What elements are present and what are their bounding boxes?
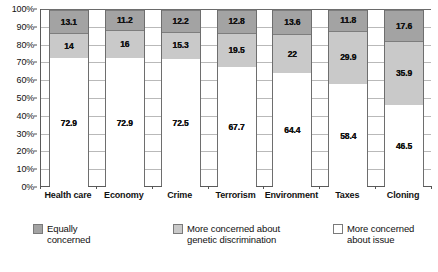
- bar-segment: 16: [106, 30, 144, 58]
- bar-segment: 35.9: [385, 41, 423, 105]
- bar-segment: 72.9: [50, 58, 88, 188]
- bar-segment: 72.5: [162, 59, 200, 188]
- y-tick-mark: [34, 133, 37, 134]
- bar-segment: 13.1: [50, 10, 88, 33]
- y-tick-mark: [34, 98, 37, 99]
- bar-segment: 19.5: [218, 33, 256, 68]
- bar-segment-value: 72.9: [61, 119, 77, 128]
- bar-economy: 72.91611.2: [105, 9, 145, 186]
- bar-segment: 12.8: [218, 10, 256, 33]
- legend-swatch-icon: [173, 224, 183, 234]
- bar-segment-value: 13.1: [61, 18, 77, 27]
- bar-segment: 11.8: [329, 10, 367, 31]
- y-tick-mark: [34, 26, 37, 27]
- legend-item[interactable]: More concerned about issue: [333, 223, 433, 245]
- bar-segment-value: 35.9: [396, 69, 412, 78]
- bar-segment-value: 14: [64, 42, 73, 51]
- bar-cloning: 46.535.917.6: [384, 9, 424, 186]
- legend-swatch-icon: [33, 224, 43, 234]
- x-tick-mark: [319, 186, 320, 189]
- plot-inner: 72.91413.172.91611.272.515.312.267.719.5…: [41, 9, 431, 186]
- y-tick-label: 80%: [17, 40, 34, 49]
- bar-segment-value: 12.8: [228, 17, 244, 26]
- x-tick-mark: [40, 186, 41, 189]
- x-axis-label: Terrorism: [216, 190, 256, 201]
- bar-crime: 72.515.312.2: [161, 9, 201, 186]
- bar-segment-value: 46.5: [396, 142, 412, 151]
- bar-segment-value: 16: [120, 40, 129, 49]
- y-tick-mark: [34, 115, 37, 116]
- y-tick-mark: [34, 151, 37, 152]
- bar-segment: 29.9: [329, 31, 367, 84]
- bar-environment: 64.42213.6: [272, 9, 312, 186]
- x-tick-mark: [96, 186, 97, 189]
- y-tick-label: 100%: [12, 5, 34, 14]
- bar-segment: 12.2: [162, 10, 200, 32]
- bar-segment: 67.7: [218, 67, 256, 188]
- y-tick-label: 40%: [17, 111, 34, 120]
- bar-terrorism: 67.719.512.8: [217, 9, 257, 186]
- bar-segment-value: 17.6: [396, 22, 412, 31]
- bar-segment-value: 72.9: [117, 119, 133, 128]
- bar-segment: 58.4: [329, 84, 367, 188]
- bar-segment: 14: [50, 33, 88, 58]
- bar-segment: 15.3: [162, 32, 200, 59]
- x-axis-label: Economy: [104, 190, 143, 201]
- y-tick-label: 90%: [17, 22, 34, 31]
- bar-segment-value: 64.4: [284, 126, 300, 135]
- x-tick-mark: [263, 186, 264, 189]
- y-tick-label: 0%: [21, 183, 34, 192]
- bar-segment-value: 19.5: [228, 46, 244, 55]
- bar-segment-value: 58.4: [340, 132, 356, 141]
- y-tick-label: 20%: [17, 147, 34, 156]
- x-axis-labels: Health careEconomyCrimeTerrorismEnvironm…: [40, 190, 431, 204]
- bar-segment: 72.9: [106, 58, 144, 188]
- y-tick-mark: [34, 62, 37, 63]
- x-tick-mark: [375, 186, 376, 189]
- y-tick-label: 10%: [17, 165, 34, 174]
- bar-segment: 64.4: [273, 73, 311, 188]
- bar-segment: 13.6: [273, 10, 311, 34]
- x-axis-label: Taxes: [335, 190, 359, 201]
- bar-segment-value: 72.5: [173, 119, 189, 128]
- legend-item[interactable]: More concerned about genetic discriminat…: [173, 223, 295, 245]
- bar-segment-value: 29.9: [340, 53, 356, 62]
- bar-segment-value: 67.7: [228, 123, 244, 132]
- x-tick-mark: [431, 186, 432, 189]
- bar-segment-value: 13.6: [284, 18, 300, 27]
- x-axis-label: Environment: [265, 190, 318, 201]
- bar-segment-value: 11.8: [340, 16, 356, 25]
- y-tick-label: 60%: [17, 76, 34, 85]
- x-axis-label: Crime: [167, 190, 192, 201]
- plot-area: 72.91413.172.91611.272.515.312.267.719.5…: [40, 9, 431, 187]
- y-tick-mark: [34, 80, 37, 81]
- legend-label: Equally concerned: [47, 223, 107, 245]
- x-tick-mark: [208, 186, 209, 189]
- y-tick-mark: [34, 9, 37, 10]
- y-tick-label: 30%: [17, 129, 34, 138]
- legend-label: More concerned about issue: [347, 223, 433, 245]
- stacked-bar-chart: 0%10%20%30%40%50%60%70%80%90%100% 72.914…: [0, 0, 438, 272]
- y-tick-label: 70%: [17, 58, 34, 67]
- x-tick-mark: [152, 186, 153, 189]
- bar-segment-value: 11.2: [117, 16, 133, 25]
- y-tick-mark: [34, 44, 37, 45]
- chart-legend: Equally concernedMore concerned about ge…: [33, 223, 433, 268]
- y-tick-mark: [34, 187, 37, 188]
- x-axis-label: Cloning: [387, 190, 419, 201]
- legend-label: More concerned about genetic discriminat…: [187, 223, 295, 245]
- bar-segment: 22: [273, 34, 311, 73]
- bar-health-care: 72.91413.1: [49, 9, 89, 186]
- y-tick-mark: [34, 169, 37, 170]
- bar-segment-value: 12.2: [173, 17, 189, 26]
- bar-segment-value: 15.3: [173, 41, 189, 50]
- legend-item[interactable]: Equally concerned: [33, 223, 107, 245]
- y-axis: 0%10%20%30%40%50%60%70%80%90%100%: [4, 9, 37, 187]
- x-axis-label: Health care: [44, 190, 91, 201]
- y-tick-label: 50%: [17, 94, 34, 103]
- bar-taxes: 58.429.911.8: [328, 9, 368, 186]
- bar-segment: 11.2: [106, 10, 144, 30]
- legend-swatch-icon: [333, 224, 343, 234]
- bar-segment: 46.5: [385, 105, 423, 188]
- bar-segment: 17.6: [385, 10, 423, 41]
